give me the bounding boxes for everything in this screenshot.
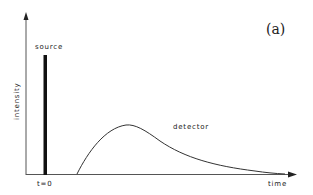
y-axis-label: intensity [13, 82, 21, 120]
origin-tick-label: t=0 [37, 180, 52, 188]
y-axis-arrow-icon [24, 12, 29, 20]
source-label: source [35, 43, 63, 51]
x-axis-label: time [268, 180, 287, 188]
time-of-flight-diagram: (a) source detector intensity t=0 time [0, 0, 313, 195]
x-axis-arrow-icon [288, 172, 297, 178]
detector-label: detector [173, 123, 209, 131]
detector-curve [77, 125, 285, 174]
panel-label: (a) [266, 21, 285, 37]
source-pulse [44, 55, 48, 175]
